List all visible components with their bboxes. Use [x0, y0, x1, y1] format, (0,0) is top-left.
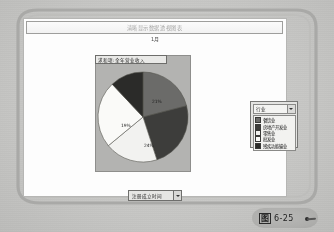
pivot-chart-area: 求和项:全年营业收入 21% 24% 19% [95, 55, 191, 172]
pie-chart: 21% 24% 19% [97, 65, 189, 169]
legend-color-swatch-icon [255, 117, 261, 123]
legend-color-swatch-icon [255, 143, 261, 149]
pie-label-2: 19% [121, 123, 131, 128]
pie-label-1: 24% [144, 143, 154, 148]
month-label: 1月 [24, 35, 286, 42]
figure-caption: 图 6-25 [252, 208, 318, 228]
legend-item-label: 餐饮业 [263, 117, 275, 123]
legend-list: 餐饮业房地产开发业零售业批发业残疾功能输业 [253, 115, 296, 151]
legend-color-swatch-icon [255, 124, 261, 130]
pie-label-0: 21% [152, 99, 162, 104]
chart-title-box: 求和项:全年营业收入 [95, 55, 167, 64]
page-title: 清晰显示数据透视图表 [127, 24, 183, 31]
figure-caption-prefix: 图 [259, 213, 271, 224]
legend-color-swatch-icon [255, 130, 261, 136]
legend-item-label: 批发业 [263, 136, 275, 142]
industry-filter-dropdown[interactable]: 行业 [253, 104, 296, 114]
legend-color-swatch-icon [255, 136, 261, 142]
chevron-down-icon[interactable] [287, 105, 295, 113]
registration-date-filter-label: 注册成立时间 [129, 193, 162, 199]
legend-item-label: 零售业 [263, 130, 275, 136]
legend-item-label: 房地产开发业 [263, 124, 287, 130]
caption-tail-icon [307, 218, 316, 221]
chevron-down-icon[interactable] [173, 191, 181, 200]
industry-filter-label: 行业 [254, 106, 266, 112]
legend-item-label: 残疾功能输业 [263, 143, 287, 149]
chart-title: 求和项:全年营业收入 [98, 57, 145, 63]
window-title-bar: 清晰显示数据透视图表 [26, 21, 283, 34]
figure-caption-number: 6-25 [274, 214, 294, 223]
pie-chart-svg [97, 65, 189, 169]
industry-legend-filter-panel[interactable]: 行业 餐饮业房地产开发业零售业批发业残疾功能输业 [250, 101, 298, 148]
registration-date-filter[interactable]: 注册成立时间 [128, 190, 182, 201]
application-window: 清晰显示数据透视图表 1月 求和项:全年营业收入 21% 24% 19% 注册成… [24, 19, 286, 196]
legend-item[interactable]: 残疾功能输业 [254, 143, 295, 149]
